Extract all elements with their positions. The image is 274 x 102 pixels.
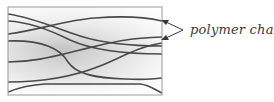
arrow-line-top — [166, 22, 183, 30]
label-arrows — [161, 20, 183, 40]
arrow-line-bottom — [166, 30, 183, 38]
polymer-chains-label: polymer chains — [190, 22, 274, 37]
polymer-diagram — [0, 0, 274, 102]
